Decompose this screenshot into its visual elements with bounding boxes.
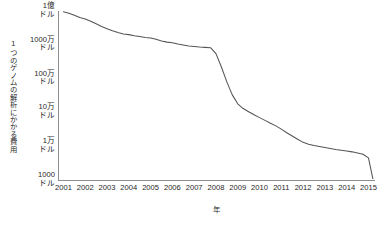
y-tick-unit: ドル [22, 45, 55, 54]
y-tick-unit: ドル [22, 180, 55, 189]
cost-curve [58, 11, 375, 180]
x-tick-label: 2015 [360, 183, 377, 193]
y-tick-unit: ドル [22, 11, 55, 20]
y-axis-title-text: 1つのゲノムの解析にかかる費用 [9, 39, 16, 152]
x-axis-tick-labels: 2001200220032004200520062007200820092010… [58, 183, 375, 195]
y-axis-title: 1つのゲノムの解析にかかる費用 [4, 0, 22, 190]
x-tick-label: 2001 [55, 183, 72, 193]
x-tick-label: 2004 [120, 183, 137, 193]
x-tick-label: 2003 [99, 183, 116, 193]
y-tick-unit: ドル [22, 79, 55, 88]
x-axis-title: 年 [58, 203, 375, 214]
y-tick-label: 100万ドル [22, 70, 55, 87]
x-tick-label: 2013 [316, 183, 333, 193]
plot-area [58, 11, 375, 180]
y-tick-unit: ドル [22, 146, 55, 155]
cost-curve-path [63, 12, 372, 179]
y-tick-unit: ドル [22, 112, 55, 121]
x-tick-label: 2005 [142, 183, 159, 193]
x-tick-label: 2002 [77, 183, 94, 193]
x-tick-label: 2011 [273, 183, 289, 193]
y-axis-tick-labels: 1億ドル1000万ドル100万ドル10万ドル1万ドル1000ドル [22, 0, 55, 228]
x-tick-label: 2009 [229, 183, 246, 193]
y-tick-label: 1000ドル [22, 171, 55, 188]
x-tick-label: 2012 [295, 183, 312, 193]
x-axis-spine [58, 180, 375, 181]
x-tick-label: 2006 [164, 183, 181, 193]
x-tick-label: 2014 [338, 183, 355, 193]
x-tick-label: 2007 [186, 183, 203, 193]
y-tick-label: 1万ドル [22, 138, 55, 155]
y-tick-label: 1億ドル [22, 2, 55, 19]
x-tick-label: 2008 [208, 183, 225, 193]
genome-sequencing-cost-chart: 1つのゲノムの解析にかかる費用 1億ドル1000万ドル100万ドル10万ドル1万… [0, 0, 386, 228]
x-tick-label: 2010 [251, 183, 268, 193]
y-tick-label: 10万ドル [22, 104, 55, 121]
y-tick-label: 1000万ドル [22, 36, 55, 53]
